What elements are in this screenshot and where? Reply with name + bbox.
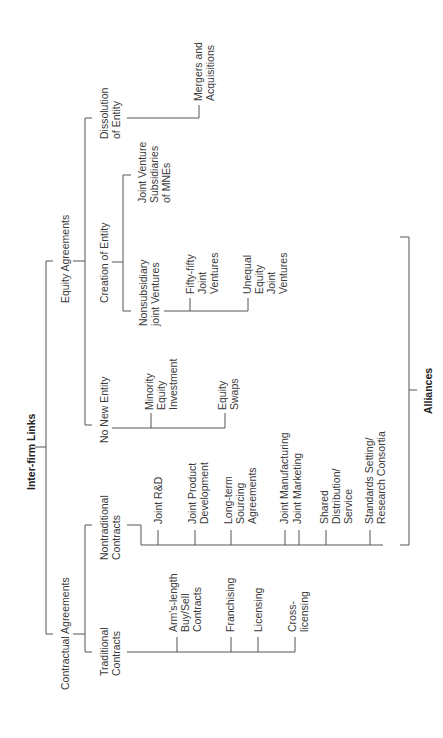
node-creation-of-entity: Creation of Entity — [98, 222, 110, 303]
leaf-unequal-equity-jv: Unequal Equity Joint Ventures — [241, 252, 289, 294]
node-traditional-contracts: Traditional Contracts — [98, 624, 122, 676]
leaf-jv-subsidiaries-of-mnes: Joint Venture Subsidiaries of MNEs — [136, 139, 172, 203]
leaf-equity-swaps: Equity Swaps — [216, 378, 240, 410]
leaf-shared-distribution: Shared Distribution/ Service — [318, 466, 354, 524]
inter-firm-links-diagram: Inter-firm Links Contractual Agreements … — [0, 0, 443, 738]
leaf-joint-rd: Joint R&D — [152, 476, 164, 524]
leaf-licensing: Licensing — [252, 587, 264, 632]
node-nonsubsidiary-joint-ventures: Nonsubsidiary joint Ventures — [137, 257, 161, 327]
labels: Inter-firm Links Contractual Agreements … — [25, 39, 434, 690]
leaf-mergers-and-acquisitions: Mergers and Acquisitions — [192, 39, 216, 101]
leaf-fifty-fifty-jv: Fifty-fifty Joint Ventures — [184, 251, 220, 294]
root-node-inter-firm-links: Inter-firm Links — [25, 413, 37, 490]
leaf-long-term-sourcing: Long-term Sourcing Agreements — [222, 467, 258, 524]
leaf-joint-product-development: Joint Product Development — [186, 460, 210, 524]
leaf-minority-equity-investment: Minority Equity Investment — [143, 359, 179, 410]
leaf-cross-licensing: Cross- licensing — [286, 591, 310, 632]
leaf-arms-length-contracts: Arm's-length Buy/Sell Contracts — [167, 570, 203, 632]
node-no-new-entity: No New Entity — [98, 376, 110, 443]
leaf-joint-marketing: Joint Marketing — [291, 453, 303, 524]
node-nontraditional-contracts: Nontraditional Contracts — [98, 492, 122, 560]
node-dissolution-of-entity: Dissolution of Entity — [98, 85, 122, 139]
alliances-bracket-label: Alliances — [422, 368, 434, 414]
leaf-standards-setting: Standards Setting/ Research Consortia — [363, 431, 387, 524]
node-equity-agreements: Equity Agreements — [59, 215, 71, 303]
leaf-joint-manufacturing: Joint Manufacturing — [278, 432, 290, 524]
node-contractual-agreements: Contractual Agreements — [59, 577, 71, 690]
leaf-franchising: Franchising — [224, 578, 236, 632]
